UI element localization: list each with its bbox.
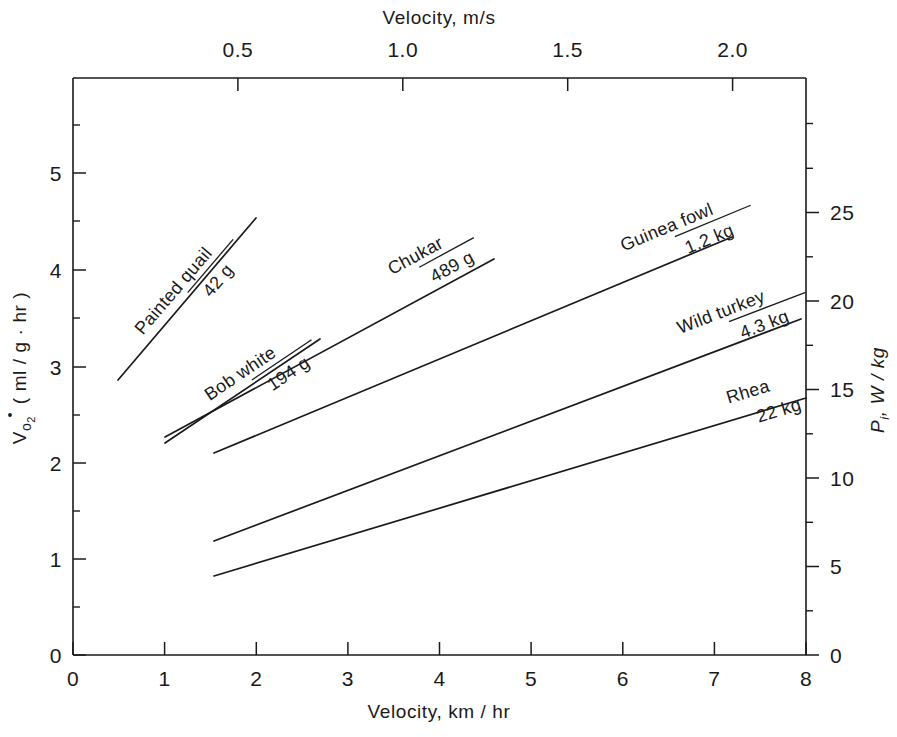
x-tick-label-5: 5 (525, 667, 537, 690)
bottom-axis-ticks (73, 642, 806, 655)
left-axis-title-v: V (9, 431, 30, 444)
series-line-rhea (214, 398, 806, 576)
x2-tick-label-0: 0.5 (223, 38, 254, 61)
series-label-rhea-mass: 22 kg (754, 394, 803, 426)
series-label-rhea: Rhea 22 kg (724, 368, 804, 433)
x-tick-label-6: 6 (617, 667, 629, 690)
bottom-axis-title: Velocity, km / hr (368, 701, 511, 722)
x2-tick-label-2: 1.5 (552, 38, 583, 61)
right-axis-title: Pi, W / kg (867, 347, 892, 433)
top-axis-ticks (238, 78, 733, 91)
x-tick-label-8: 8 (800, 667, 812, 690)
y2-tick-label-20: 20 (830, 290, 854, 313)
right-axis-title-units: , W / kg (867, 347, 888, 416)
x-tick-label-4: 4 (433, 667, 445, 690)
oxygen-consumption-vs-velocity-chart: 0 1 2 3 4 5 0 1 2 3 4 5 6 7 (0, 0, 897, 737)
svg-text:Vo2 ( ml / g · hr ): Vo2 ( ml / g · hr ) (9, 292, 37, 445)
x-tick-label-1: 1 (159, 667, 171, 690)
series-label-wild-turkey: Wild turkey 4.3 kg (674, 272, 814, 363)
x-tick-label-7: 7 (708, 667, 720, 690)
y-tick-label-3: 3 (50, 356, 62, 379)
y-tick-label-5: 5 (50, 162, 62, 185)
y-tick-label-1: 1 (50, 548, 62, 571)
y-tick-label-0: 0 (50, 644, 62, 667)
plot-frame (73, 78, 806, 655)
series-label-rhea-name: Rhea (724, 375, 773, 407)
top-axis-tick-labels: 0.5 1.0 1.5 2.0 (223, 38, 748, 61)
series-line-painted-quail (118, 218, 256, 380)
y2-tick-label-0: 0 (830, 644, 842, 667)
bottom-axis-tick-labels: 0 1 2 3 4 5 6 7 8 (67, 667, 812, 690)
series-label-guinea-fowl: Guinea fowl 1.2 kg (617, 185, 760, 280)
right-axis-title-p: P (867, 420, 888, 433)
y2-tick-label-5: 5 (830, 555, 842, 578)
y-tick-label-4: 4 (50, 259, 62, 282)
left-axis-title: Vo2 ( ml / g · hr ) (8, 292, 37, 445)
y-tick-label-2: 2 (50, 452, 62, 475)
right-axis-ticks (806, 124, 819, 656)
x2-tick-label-3: 2.0 (717, 38, 748, 61)
left-axis-ticks (73, 125, 86, 655)
left-axis-title-2: 2 (25, 416, 37, 423)
series-label-bob-white: Bob white 194 g (201, 321, 326, 426)
y2-tick-label-10: 10 (830, 467, 854, 490)
x2-tick-label-1: 1.0 (387, 38, 418, 61)
left-axis-title-units: ( ml / g · hr ) (9, 292, 30, 404)
svg-text:Pi, W / kg: Pi, W / kg (867, 347, 892, 433)
x-tick-label-3: 3 (342, 667, 354, 690)
chart-svg: 0 1 2 3 4 5 0 1 2 3 4 5 6 7 (0, 0, 897, 737)
y2-tick-label-25: 25 (830, 201, 854, 224)
right-axis-tick-labels: 0 5 10 15 20 25 (830, 201, 854, 667)
left-axis-title-o: o (18, 423, 34, 431)
left-axis-tick-labels: 0 1 2 3 4 5 (50, 162, 62, 667)
y2-tick-label-15: 15 (830, 378, 854, 401)
series-label-chukar: Chukar 489 g (384, 218, 485, 302)
x-tick-label-2: 2 (250, 667, 262, 690)
v-dot-accent (8, 413, 12, 417)
top-axis-title: Velocity, m/s (382, 7, 495, 28)
x-tick-label-0: 0 (67, 667, 79, 690)
